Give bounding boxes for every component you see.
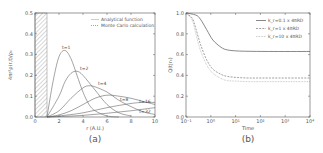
y-axis-label: 4πr²ρ(r,t)/ρ₀ xyxy=(7,50,14,80)
legend-entry: Analytical function xyxy=(101,17,143,22)
y-tick-label: 0.0 xyxy=(176,114,184,120)
legend-entry: k_r=10 x 4πRD xyxy=(268,34,302,40)
y-tick-label: 1.0 xyxy=(176,10,184,16)
x-tick-label: 10 xyxy=(152,118,158,124)
y-tick-label: 0.3 xyxy=(25,51,33,57)
y-tick-label: 0.0 xyxy=(25,114,33,120)
curve-label: t=1 xyxy=(62,45,71,50)
x-tick-label: 10¹ xyxy=(231,118,239,124)
y-axis-label: Q(t|r₀) xyxy=(167,57,174,73)
curve-label: t=4 xyxy=(98,81,107,86)
x-tick-label: 8 xyxy=(129,118,132,124)
panel-caption: (b) xyxy=(242,134,255,144)
y-tick-label: 0.2 xyxy=(25,72,33,78)
x-tick-label: 2 xyxy=(57,118,60,124)
legend: k_r=0.1 x 4πRDk_r=1 x 4πRDk_r=10 x 4πRD xyxy=(256,18,304,40)
x-axis-label: Time xyxy=(241,125,254,131)
legend-entry: k_r=1 x 4πRD xyxy=(268,26,300,32)
figure: t=1t=2t=4t=8t=16t=3202468100.00.10.20.30… xyxy=(0,0,323,153)
legend-entry: Monte Carlo calculation xyxy=(101,23,154,28)
curve-label: t=2 xyxy=(80,66,89,71)
legend-entry: k_r=0.1 x 4πRD xyxy=(268,18,304,24)
y-tick-label: 0.6 xyxy=(176,51,184,57)
y-tick-label: 0.8 xyxy=(176,31,184,37)
y-tick-label: 0.5 xyxy=(25,10,33,16)
x-tick-label: 10³ xyxy=(281,118,289,124)
x-tick-label: 4 xyxy=(81,118,84,124)
series-line-2 xyxy=(186,13,310,82)
x-tick-label: 10⁰ xyxy=(207,118,215,124)
hatched-region xyxy=(35,13,47,117)
x-tick-label: 0 xyxy=(33,118,36,124)
plot-frame xyxy=(35,13,155,117)
x-axis-label: r (A.U.) xyxy=(86,125,104,131)
x-tick-label: 10⁴ xyxy=(306,118,314,124)
curve-label: t=16 xyxy=(139,99,150,104)
y-tick-label: 0.4 xyxy=(176,72,184,78)
chart-panel-b: 10⁻¹10⁰10¹10²10³10⁴0.00.20.40.60.81.0Tim… xyxy=(167,10,314,144)
x-tick-label: 10² xyxy=(256,118,264,124)
x-tick-label: 6 xyxy=(105,118,108,124)
curve-label: t=32 xyxy=(139,109,150,114)
legend: Analytical functionMonte Carlo calculati… xyxy=(91,17,154,28)
y-tick-label: 0.4 xyxy=(25,31,33,37)
y-tick-label: 0.2 xyxy=(176,93,184,99)
curve-label: t=8 xyxy=(120,97,129,102)
chart-panel-a: t=1t=2t=4t=8t=16t=3202468100.00.10.20.30… xyxy=(7,10,158,144)
panel-caption: (a) xyxy=(89,134,102,144)
series-line-t-1 xyxy=(47,50,119,117)
y-tick-label: 0.1 xyxy=(25,93,33,99)
